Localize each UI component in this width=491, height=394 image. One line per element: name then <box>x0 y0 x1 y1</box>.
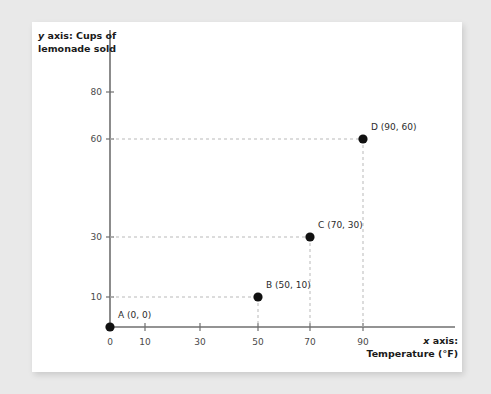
x-tick-label: 30 <box>194 337 205 347</box>
y-tick-label: 60 <box>80 134 102 144</box>
y-tick-label: 30 <box>80 232 102 242</box>
y-axis-variable: y <box>38 30 44 41</box>
y-tick-label: 80 <box>80 87 102 97</box>
data-point-d[interactable] <box>358 134 367 143</box>
y-tick-label: 10 <box>80 292 102 302</box>
x-tick-label: 0 <box>107 337 113 347</box>
x-tick-label: 90 <box>357 337 368 347</box>
x-tick-label: 50 <box>252 337 263 347</box>
guide-lines <box>110 139 363 327</box>
x-tick-label: 70 <box>304 337 315 347</box>
data-point-label-d: D (90, 60) <box>371 122 416 132</box>
x-tick-label: 10 <box>139 337 150 347</box>
data-point-b[interactable] <box>253 292 262 301</box>
data-point-label-c: C (70, 30) <box>318 220 363 230</box>
y-axis-title: y axis: Cups of lemonade sold <box>38 30 116 55</box>
data-point-a[interactable] <box>105 322 114 331</box>
data-point-label-a: A (0, 0) <box>118 310 151 320</box>
data-point-label-b: B (50, 10) <box>266 280 311 290</box>
scatter-plot: y axis: Cups of lemonade sold x axis: Te… <box>32 22 462 372</box>
x-axis-title: x axis: Temperature (°F) <box>366 335 458 360</box>
chart-card: y axis: Cups of lemonade sold x axis: Te… <box>32 22 462 372</box>
data-point-c[interactable] <box>305 232 314 241</box>
data-point-markers <box>105 134 367 331</box>
x-axis-variable: x <box>423 335 429 346</box>
plot-canvas <box>32 22 462 372</box>
